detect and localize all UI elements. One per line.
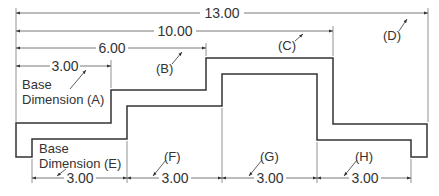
dimension-h: 3.00	[317, 170, 411, 186]
callout-d: (D)	[383, 19, 407, 43]
callout-e: Base Dimension (E)	[39, 141, 121, 176]
dim-h-label: 3.00	[351, 170, 378, 186]
dim-3-top-label: 3.00	[51, 58, 78, 74]
callout-a-line2: Dimension (A)	[22, 92, 104, 107]
callout-c-label: (C)	[278, 38, 296, 53]
dim-e-label: 3.00	[66, 170, 93, 186]
callout-b: (B)	[156, 52, 182, 76]
callout-h-label: (H)	[355, 149, 373, 164]
dimension-13: 13.00	[16, 5, 428, 21]
dimensioning-drawing: 13.00 10.00 6.00 3.00 3.00 3.00 3.00 3.0…	[0, 0, 439, 196]
dim-10-label: 10.00	[157, 23, 192, 39]
callout-a-line1: Base	[22, 77, 52, 92]
callout-e-line1: Base	[39, 141, 69, 156]
callout-b-label: (B)	[156, 61, 173, 76]
callout-f-label: (F)	[164, 149, 181, 164]
dimension-6: 6.00	[16, 40, 206, 56]
callout-a: Base Dimension (A)	[22, 70, 104, 107]
dim-6-label: 6.00	[98, 40, 125, 56]
callout-d-label: (D)	[383, 28, 401, 43]
dimension-e: 3.00	[32, 170, 127, 186]
callout-g-label: (G)	[260, 149, 279, 164]
dimension-10: 10.00	[16, 23, 333, 39]
dim-g-label: 3.00	[256, 170, 283, 186]
dim-13-label: 13.00	[204, 5, 239, 21]
dimension-f: 3.00	[127, 170, 222, 186]
dim-f-label: 3.00	[161, 170, 188, 186]
callout-e-line2: Dimension (E)	[39, 156, 121, 171]
dimension-g: 3.00	[222, 170, 317, 186]
dimension-3-top: 3.00	[16, 58, 111, 74]
callout-c: (C)	[278, 34, 303, 53]
